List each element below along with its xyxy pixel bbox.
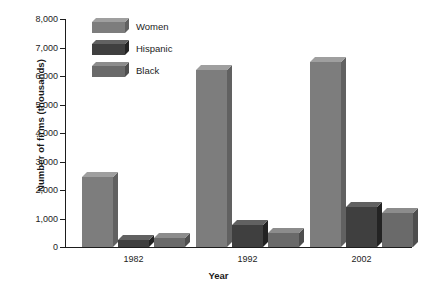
legend-swatch-hispanic-icon [92,44,125,55]
legend-swatch-black-icon [92,66,125,77]
legend-label: Black [136,65,159,76]
bar-women-2002 [310,62,341,247]
bar-black-1992 [268,233,299,247]
y-axis-tick-mark [60,133,65,134]
y-axis-tick-label: 3,000 [35,157,58,166]
bar-top-face [382,208,418,213]
y-axis-tick-label: 7,000 [35,43,58,52]
y-axis-tick-label: 5,000 [35,100,58,109]
bar-side-face [341,57,346,247]
y-axis-tick-mark [60,190,65,191]
y-axis-tick-label: 6,000 [35,72,58,81]
bar-top-face [154,233,190,238]
y-axis-tick-mark [60,76,65,77]
y-axis-tick-mark [60,162,65,163]
legend-swatch-top-face [92,18,129,22]
bar-top-face [268,228,304,233]
bar-front-face [154,238,185,247]
x-axis-title: Year [208,270,228,281]
x-axis-title-wrap: Year [0,270,437,281]
y-axis-tick-label: 4,000 [35,129,58,138]
bar-hispanic-1982 [118,240,149,247]
x-axis-tick-label-1982: 1982 [123,254,143,264]
bar-front-face [346,207,377,247]
bar-front-face [82,177,113,247]
bar-front-face [382,213,413,247]
bar-top-face [310,57,346,62]
x-axis-tick-label-2002: 2002 [351,254,371,264]
bar-women-1992 [196,70,227,247]
legend-swatch-front-face [92,66,125,77]
legend-swatch-top-face [92,62,129,66]
bar-side-face [227,65,232,247]
y-axis-tick-label: 1,000 [35,214,58,223]
legend-label: Women [136,21,169,32]
bar-side-face [413,208,418,247]
bar-front-face [232,225,263,247]
y-axis-tick-mark [60,219,65,220]
y-axis-tick-mark [60,48,65,49]
bar-side-face [113,172,118,247]
x-axis-tick-label-1992: 1992 [237,254,257,264]
bar-women-1982 [82,177,113,247]
bar-chart-figure: Number of firms (thousands) 01,0002,0003… [0,0,437,295]
legend-swatch-women-icon [92,22,125,33]
legend-swatch-front-face [92,44,125,55]
bar-side-face [377,202,382,247]
bar-black-1982 [154,238,185,247]
y-axis-tick-mark [60,105,65,106]
bar-front-face [268,233,299,247]
y-axis-tick-mark [60,19,65,20]
legend-swatch-top-face [92,40,129,44]
bar-front-face [118,240,149,247]
bar-top-face [82,172,118,177]
y-axis-tick-label: 2,000 [35,186,58,195]
y-axis-tick-mark [60,247,65,248]
bar-front-face [196,70,227,247]
bar-top-face [346,202,382,207]
bar-front-face [310,62,341,247]
bar-top-face [118,235,154,240]
legend-label: Hispanic [136,43,172,54]
y-axis-tick-label: 8,000 [35,15,58,24]
legend-swatch-front-face [92,22,125,33]
bar-top-face [196,65,232,70]
bar-top-face [232,220,268,225]
bar-black-2002 [382,213,413,247]
y-axis-line [65,19,66,248]
y-axis-tick-labels: 01,0002,0003,0004,0005,0006,0007,0008,00… [0,0,58,295]
x-axis-line [65,247,412,248]
bar-hispanic-2002 [346,207,377,247]
y-axis-tick-label: 0 [53,243,58,252]
bar-hispanic-1992 [232,225,263,247]
